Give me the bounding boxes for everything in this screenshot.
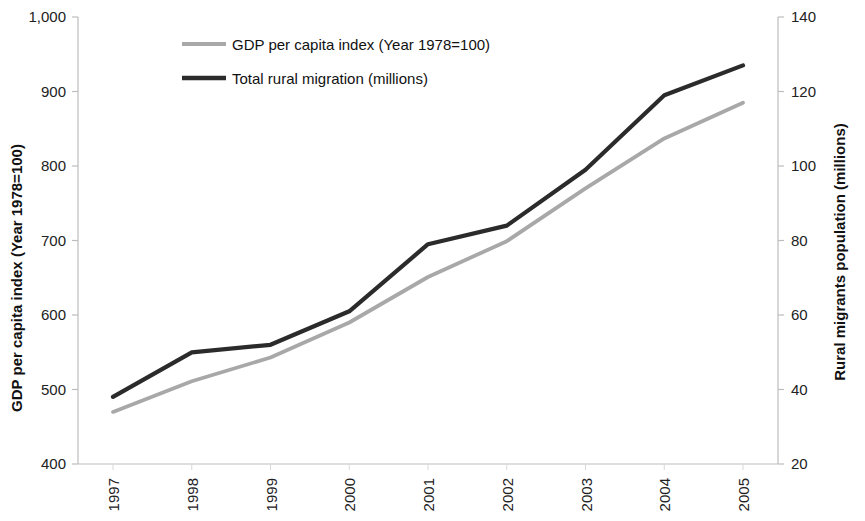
left-tick-label: 800 [41, 157, 66, 174]
line-chart: 4005006007008009001,000 2040608010012014… [0, 0, 865, 521]
legend-label: Total rural migration (millions) [232, 70, 428, 87]
x-tick-label: 2000 [341, 478, 358, 511]
chart-container: 4005006007008009001,000 2040608010012014… [0, 0, 865, 521]
x-tick-label: 2005 [735, 478, 752, 511]
x-tick-label: 2002 [499, 478, 516, 511]
left-axis-ticks: 4005006007008009001,000 [28, 8, 78, 472]
axis-lines [78, 17, 778, 464]
left-tick-label: 500 [41, 381, 66, 398]
series-lines [113, 65, 743, 412]
x-tick-label: 1998 [184, 478, 201, 511]
left-tick-label: 700 [41, 232, 66, 249]
x-axis-ticks: 199719981999200020012002200320042005 [105, 464, 752, 511]
left-tick-label: 600 [41, 306, 66, 323]
series-line [113, 103, 743, 412]
right-axis-title: Rural migrants population (millions) [831, 123, 848, 381]
left-tick-label: 1,000 [28, 8, 66, 25]
legend-label: GDP per capita index (Year 1978=100) [232, 36, 490, 53]
x-tick-label: 2003 [578, 478, 595, 511]
series-line [113, 65, 743, 397]
x-tick-label: 2001 [420, 478, 437, 511]
right-tick-label: 80 [791, 232, 808, 249]
right-tick-label: 100 [791, 157, 816, 174]
right-tick-label: 60 [791, 306, 808, 323]
chart-legend: GDP per capita index (Year 1978=100)Tota… [182, 36, 490, 87]
right-tick-label: 140 [791, 8, 816, 25]
x-tick-label: 2004 [656, 478, 673, 511]
x-tick-label: 1999 [263, 478, 280, 511]
left-tick-label: 400 [41, 455, 66, 472]
right-tick-label: 40 [791, 381, 808, 398]
left-axis-title: GDP per capita index (Year 1978=100) [8, 144, 25, 412]
right-axis-ticks: 20406080100120140 [778, 8, 816, 472]
left-tick-label: 900 [41, 83, 66, 100]
right-tick-label: 120 [791, 83, 816, 100]
x-tick-label: 1997 [105, 478, 122, 511]
right-tick-label: 20 [791, 455, 808, 472]
